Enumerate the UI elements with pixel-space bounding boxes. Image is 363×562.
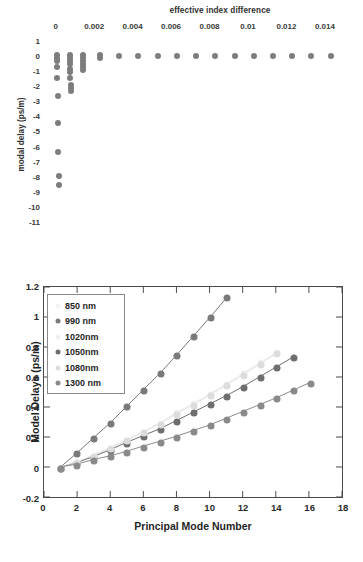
bottom-chart-data-point xyxy=(74,462,81,469)
top-chart-data-point xyxy=(54,75,60,81)
bottom-chart-data-point xyxy=(191,402,198,409)
bottom-chart-data-point xyxy=(91,458,98,465)
bottom-chart-data-point xyxy=(307,380,314,387)
bottom-chart-data-point xyxy=(224,416,231,423)
legend-item-label: 990 nm xyxy=(65,316,96,326)
legend-item-label: 1020nm xyxy=(65,332,99,342)
top-chart-data-point xyxy=(135,53,141,59)
legend-item[interactable]: 990 nm xyxy=(48,314,124,330)
bottom-chart-x-tick-label: 14 xyxy=(271,502,282,513)
bottom-chart-data-point xyxy=(207,402,214,409)
top-chart-data-point xyxy=(328,53,334,59)
top-chart-x-tick-label: 0.008 xyxy=(200,22,220,31)
bottom-chart-data-point xyxy=(274,396,281,403)
top-chart-data-point xyxy=(54,64,60,70)
bottom-chart-data-point xyxy=(224,295,231,302)
top-chart-data-point xyxy=(289,53,295,59)
top-chart-data-point xyxy=(80,67,86,73)
top-chart-x-tick-label: 0.002 xyxy=(84,22,104,31)
bottom-chart-data-point xyxy=(124,438,131,445)
top-chart-plot-area xyxy=(48,35,348,231)
top-chart-data-point xyxy=(232,53,238,59)
top-chart-data-point xyxy=(270,53,276,59)
model-delays-line-chart: 024681012141618 -0.200.20.40.60.811.2 Pr… xyxy=(0,258,363,562)
bottom-chart-data-point xyxy=(274,351,281,358)
top-chart-data-point xyxy=(251,53,257,59)
bottom-chart-data-point xyxy=(191,428,198,435)
bottom-chart-data-point xyxy=(174,418,181,425)
top-chart-data-point xyxy=(97,55,103,61)
top-chart-data-point xyxy=(56,173,62,179)
legend-item-label: 1080nm xyxy=(65,363,99,373)
legend-item[interactable]: 1300 nm xyxy=(48,376,124,392)
legend-marker-icon xyxy=(52,362,63,373)
top-chart-data-point xyxy=(55,120,61,126)
legend-marker-icon xyxy=(52,300,63,311)
top-chart-title: effective index difference xyxy=(130,6,310,15)
top-chart-y-tick-label: 1 xyxy=(14,37,40,46)
top-chart-data-point xyxy=(155,53,161,59)
top-chart-data-point xyxy=(55,93,61,99)
bottom-chart-data-point xyxy=(241,384,248,391)
top-chart-x-tick-label: 0.004 xyxy=(123,22,143,31)
bottom-chart-data-point xyxy=(124,404,131,411)
legend-marker-icon xyxy=(52,316,63,327)
bottom-chart-data-point xyxy=(141,444,148,451)
bottom-chart-data-point xyxy=(241,409,248,416)
top-chart-data-point xyxy=(308,53,314,59)
legend-marker-icon xyxy=(52,331,63,342)
top-chart-x-tick-label: 0 xyxy=(53,22,57,31)
bottom-chart-data-point xyxy=(174,352,181,359)
bottom-chart-data-point xyxy=(124,449,131,456)
top-chart-y-tick-label: -11 xyxy=(14,217,40,226)
bottom-chart-data-point xyxy=(207,393,214,400)
bottom-chart-data-point xyxy=(224,383,231,390)
top-chart-data-point xyxy=(193,53,199,59)
bottom-chart-x-tick-label: 4 xyxy=(107,502,112,513)
top-chart-y-tick-label: 0 xyxy=(14,52,40,61)
legend-item[interactable]: 850 nm xyxy=(48,298,124,314)
top-chart-data-point xyxy=(116,53,122,59)
legend-item[interactable]: 1050nm xyxy=(48,345,124,361)
bottom-chart-x-tick-label: 16 xyxy=(304,502,315,513)
top-chart-data-point xyxy=(67,75,73,81)
bottom-chart-data-point xyxy=(257,374,264,381)
legend-item-label: 1050nm xyxy=(65,347,99,357)
legend-marker-icon xyxy=(52,347,63,358)
bottom-chart-x-tick-label: 8 xyxy=(174,502,179,513)
bottom-chart-data-point xyxy=(207,315,214,322)
bottom-chart-data-point xyxy=(207,423,214,430)
bottom-chart-data-point xyxy=(107,446,114,453)
top-chart-y-axis-label: modal delay (ps/m) xyxy=(17,65,26,205)
bottom-chart-data-point xyxy=(141,430,148,437)
bottom-chart-y-tick-label: 1.2 xyxy=(5,281,39,292)
bottom-chart-data-point xyxy=(74,451,81,458)
bottom-chart-data-point xyxy=(241,372,248,379)
bottom-chart-x-tick-label: 6 xyxy=(140,502,145,513)
legend-item[interactable]: 1020nm xyxy=(48,329,124,345)
bottom-chart-x-tick-label: 12 xyxy=(238,502,249,513)
bottom-chart-data-point xyxy=(157,371,164,378)
bottom-chart-data-point xyxy=(257,402,264,409)
bottom-chart-data-point xyxy=(191,333,198,340)
top-chart-data-point xyxy=(56,182,62,188)
bottom-chart-data-point xyxy=(107,421,114,428)
bottom-chart-data-point xyxy=(157,439,164,446)
legend-item-label: 1300 nm xyxy=(65,378,101,388)
bottom-chart-data-point xyxy=(174,434,181,441)
bottom-chart-x-tick-label: 10 xyxy=(204,502,215,513)
bottom-chart-y-axis-label: Model Delays (ps/m) xyxy=(29,292,41,492)
bottom-chart-data-point xyxy=(157,421,164,428)
bottom-chart-data-point xyxy=(291,388,298,395)
bottom-chart-data-point xyxy=(274,365,281,372)
bottom-chart-data-point xyxy=(107,454,114,461)
top-chart-data-point xyxy=(55,149,61,155)
legend-item[interactable]: 1080nm xyxy=(48,360,124,376)
bottom-chart-x-tick-label: 2 xyxy=(74,502,79,513)
bottom-chart-data-point xyxy=(257,361,264,368)
top-chart-data-point xyxy=(212,53,218,59)
bottom-chart-data-point xyxy=(174,411,181,418)
top-chart-data-point xyxy=(174,53,180,59)
modal-delay-scatter-chart: effective index difference 00.0020.0040.… xyxy=(0,0,363,248)
bottom-chart-data-point xyxy=(224,393,231,400)
